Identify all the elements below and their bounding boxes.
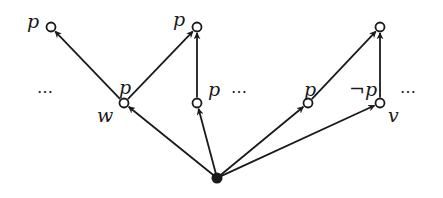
ellipsis-left: … [37, 80, 56, 96]
node-root [212, 173, 223, 184]
ellipsis-middle: … [231, 80, 250, 96]
edge-root-to-v [219, 106, 375, 178]
label-v-notp: ¬p [349, 80, 377, 99]
label-m1-p: p [208, 80, 220, 99]
label-w-p: p [119, 78, 131, 97]
nodes [47, 23, 385, 184]
label-m2-p: p [304, 80, 316, 99]
label-w-name: w [97, 106, 113, 125]
node-t1 [47, 23, 56, 32]
label-t2-p: p [173, 10, 185, 29]
node-t2 [193, 23, 202, 32]
label-v-name: v [388, 106, 399, 125]
node-t3 [376, 23, 385, 32]
edge-w-to-t1 [55, 31, 120, 99]
edge-root-to-m2 [219, 107, 304, 177]
edge-root-to-w [129, 107, 216, 177]
ellipsis-right: … [400, 80, 419, 96]
node-w [120, 99, 129, 108]
label-t1-p: p [27, 12, 39, 31]
edge-w-to-t2 [128, 31, 193, 99]
node-m1 [193, 99, 202, 108]
